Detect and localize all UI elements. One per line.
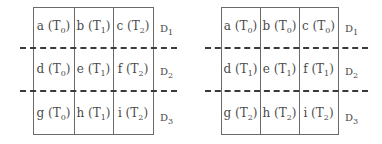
cell-task-prefix: T (316, 62, 324, 76)
cell-letter: h (262, 106, 270, 120)
cell-task-index: 2 (139, 69, 144, 78)
cell-task-index: 0 (61, 113, 66, 122)
left-cell-r2c2: e (T1) (74, 62, 113, 78)
cell-task-prefix: T (316, 106, 324, 120)
cell-task-prefix: T (240, 62, 248, 76)
cell-letter: i (303, 106, 307, 120)
cell-task-index: 1 (324, 69, 329, 78)
cell-task-prefix: T (93, 106, 101, 120)
cell-letter: e (77, 62, 84, 76)
right-cell-r2c2: e (T1) (260, 62, 299, 78)
cell-task-index: 0 (287, 26, 292, 35)
row-label-index: 3 (168, 117, 173, 126)
cell-letter: f (303, 62, 307, 76)
cell-task-index: 1 (101, 113, 106, 122)
right-row-separator-2 (205, 90, 368, 92)
left-cell-r3c1: g (T0) (33, 106, 74, 122)
cell-letter: c (302, 19, 309, 33)
row-label-index: 1 (168, 28, 173, 37)
cell-task-index: 0 (325, 26, 330, 35)
cell-task-index: 2 (248, 113, 253, 122)
row-label: D (345, 66, 353, 77)
right-cell-r2c1: d (T1) (221, 62, 260, 78)
cell-letter: d (37, 62, 45, 76)
cell-task-prefix: T (132, 19, 140, 33)
cell-task-index: 2 (138, 113, 143, 122)
cell-task-index: 0 (247, 26, 252, 35)
left-row-label-d3: D3 (160, 112, 173, 126)
left-cell-r2c3: f (T2) (113, 62, 153, 78)
cell-task-index: 1 (286, 69, 291, 78)
row-label: D (160, 112, 168, 123)
cell-task-prefix: T (53, 62, 61, 76)
left-row-label-d2: D2 (160, 66, 173, 80)
right-cell-r3c3: i (T2) (299, 106, 338, 122)
cell-letter: a (37, 19, 44, 33)
right-row-label-d3: D3 (345, 112, 358, 126)
cell-task-index: 0 (61, 69, 66, 78)
right-cell-r1c1: a (T0) (221, 19, 260, 35)
row-label-index: 3 (353, 117, 358, 126)
cell-letter: f (118, 62, 122, 76)
cell-letter: b (77, 19, 85, 33)
cell-task-prefix: T (93, 19, 101, 33)
left-cell-r1c1: a (T0) (33, 19, 74, 35)
right-row-label-d1: D1 (345, 23, 358, 37)
right-cell-r3c2: h (T2) (260, 106, 299, 122)
cell-task-prefix: T (240, 106, 248, 120)
left-row-separator-2 (20, 90, 177, 92)
cell-task-prefix: T (131, 62, 139, 76)
right-cell-r1c3: c (T0) (299, 19, 338, 35)
left-row-label-d1: D1 (160, 23, 173, 37)
cell-task-prefix: T (279, 19, 287, 33)
row-label: D (345, 112, 353, 123)
row-label: D (160, 66, 168, 77)
row-label: D (160, 23, 168, 34)
cell-task-prefix: T (279, 106, 287, 120)
row-label-index: 2 (353, 71, 358, 80)
row-label-index: 1 (353, 28, 358, 37)
right-cell-r1c2: b (T0) (260, 19, 299, 35)
left-row-separator-1 (20, 47, 177, 49)
cell-letter: c (116, 19, 123, 33)
right-row-separator-1 (205, 47, 368, 49)
cell-letter: i (118, 106, 122, 120)
cell-task-index: 2 (287, 113, 292, 122)
cell-letter: d (224, 62, 232, 76)
right-cell-r2c3: f (T1) (299, 62, 338, 78)
cell-letter: g (37, 106, 45, 120)
cell-task-index: 1 (248, 69, 253, 78)
cell-letter: e (263, 62, 270, 76)
left-cell-r2c1: d (T0) (33, 62, 74, 78)
cell-task-index: 1 (100, 69, 105, 78)
cell-letter: a (224, 19, 231, 33)
cell-letter: b (263, 19, 271, 33)
left-cell-r3c2: h (T1) (74, 106, 113, 122)
cell-task-index: 2 (324, 113, 329, 122)
cell-task-prefix: T (53, 106, 61, 120)
left-cell-r1c2: b (T1) (74, 19, 113, 35)
cell-task-index: 0 (60, 26, 65, 35)
row-label-index: 2 (168, 71, 173, 80)
cell-letter: h (76, 106, 84, 120)
right-cell-r3c1: g (T2) (221, 106, 260, 122)
right-row-label-d2: D2 (345, 66, 358, 80)
left-cell-r3c3: i (T2) (113, 106, 153, 122)
cell-task-index: 1 (101, 26, 106, 35)
row-label: D (345, 23, 353, 34)
cell-letter: g (224, 106, 232, 120)
cell-task-index: 2 (140, 26, 145, 35)
left-cell-r1c3: c (T2) (113, 19, 153, 35)
